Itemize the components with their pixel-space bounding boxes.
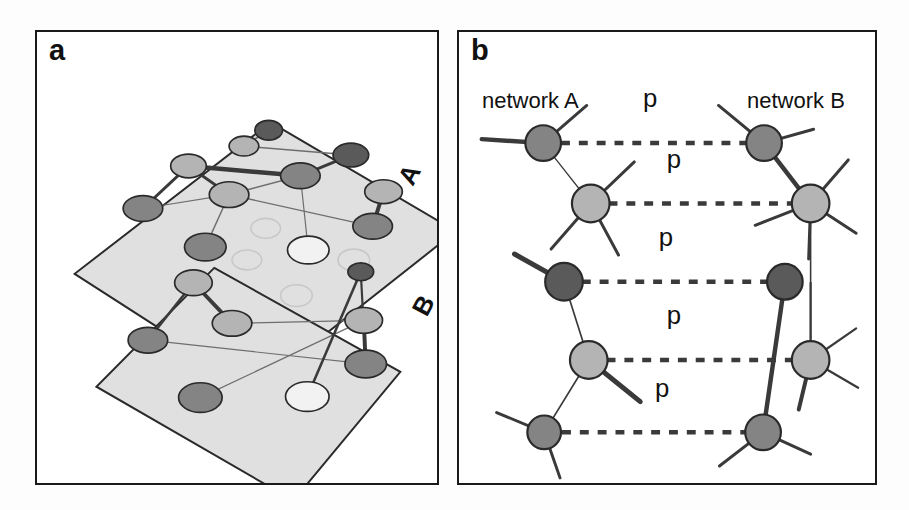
internal-edge [763,282,785,433]
plane-a-node [281,163,321,189]
plane-b-node [348,263,374,281]
plane-a-node [287,236,329,264]
plane-b-node [212,310,252,336]
plane-a-node [353,213,393,239]
network-a-node [527,415,561,449]
panel-b-diagram: ppppp [459,32,875,483]
network-b-node [792,341,830,379]
network-b-node [792,185,830,223]
network-b-node [745,414,781,450]
plane-a-node [123,196,163,222]
plane-b-node [179,383,223,413]
network-a-node [525,125,561,161]
plane-a-node [255,120,283,140]
plane-b-node [345,308,383,334]
dependency-label-p: p [655,374,669,402]
network-b-node [767,264,803,300]
plane-a-node [365,180,403,204]
panel-a-diagram: AB [37,32,437,483]
plane-label-B: B [406,290,437,320]
dependency-label-p: p [643,84,657,112]
plane-a-node [209,182,249,208]
network-a-node [572,185,610,223]
network-a-node [570,341,608,379]
plane-b-node [286,382,330,412]
panel-a: a AB [35,30,439,485]
dependency-label-p: p [667,145,681,173]
plane-b-node [128,327,168,353]
figure-root: a AB b network A network B ppppp [0,0,909,510]
dependency-label-p: p [659,223,673,251]
plane-a-node [229,136,259,156]
plane-a-node [185,233,227,261]
plane-a-node [171,154,207,178]
dependency-label-p: p [667,301,681,329]
panel-b: b network A network B ppppp [457,30,877,485]
plane-b-node [345,350,387,378]
network-a-node [545,263,583,301]
plane-b-node [175,270,213,296]
network-b-node [746,125,782,161]
plane-a-node [333,143,369,167]
